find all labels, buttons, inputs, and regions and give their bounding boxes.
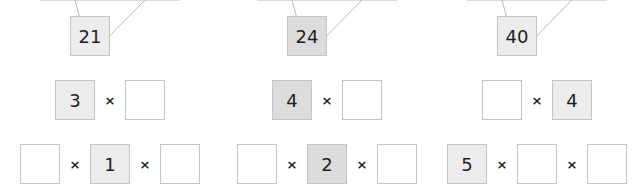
pyramid-diagram-1: 2131××× [0,0,215,191]
top-product-box: 40 [497,16,537,56]
multiply-sign: × [317,90,337,110]
middle-factor-box-1: 4 [272,80,312,120]
multiply-sign: × [65,154,85,174]
pyramid-diagram-3: 4045××× [427,0,640,191]
bottom-factor-box-2: 2 [307,144,347,184]
top-product-box: 24 [287,16,327,56]
multiply-sign: × [562,154,582,174]
bottom-factor-box-2: 1 [90,144,130,184]
multiply-sign: × [492,154,512,174]
middle-factor-box-2[interactable] [125,80,165,120]
middle-factor-box-2[interactable] [342,80,382,120]
bottom-factor-box-1[interactable] [237,144,277,184]
bottom-factor-box-3[interactable] [377,144,417,184]
multiply-sign: × [135,154,155,174]
bottom-factor-box-1: 5 [447,144,487,184]
bottom-factor-box-2[interactable] [517,144,557,184]
multiply-sign: × [352,154,372,174]
multiply-sign: × [100,90,120,110]
middle-factor-box-1[interactable] [482,80,522,120]
middle-factor-box-1: 3 [55,80,95,120]
middle-factor-box-2: 4 [552,80,592,120]
bottom-factor-box-3[interactable] [587,144,627,184]
bottom-factor-box-1[interactable] [20,144,60,184]
pyramid-diagram-2: 2442××× [217,0,432,191]
multiply-sign: × [282,154,302,174]
top-product-box: 21 [70,16,110,56]
bottom-factor-box-3[interactable] [160,144,200,184]
multiply-sign: × [527,90,547,110]
